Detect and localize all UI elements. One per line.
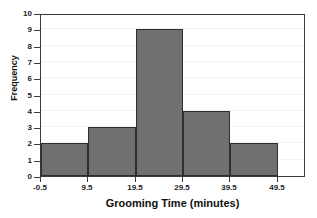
histogram-bar (136, 29, 183, 176)
histogram-bar (230, 143, 277, 176)
scan-header-text (46, 0, 166, 6)
y-axis-tick-label: 3 (0, 124, 32, 132)
y-axis-tick-label: 0 (0, 173, 32, 181)
x-axis-tick (135, 177, 136, 182)
y-axis-tick-label: 10 (0, 10, 32, 18)
histogram-figure: Frequency 012345678910 -0.59.519.529.539… (0, 0, 317, 218)
y-axis-tick-label: 5 (0, 92, 32, 100)
y-axis-tick-label: 8 (0, 43, 32, 51)
plot-inner (41, 15, 304, 176)
x-axis-tick (87, 177, 88, 182)
y-axis-tick-label: 9 (0, 26, 32, 34)
y-axis-tick-label: 7 (0, 59, 32, 67)
x-axis-tick (182, 177, 183, 182)
y-axis-tick-label: 4 (0, 108, 32, 116)
y-axis-tick-label: 6 (0, 75, 32, 83)
x-axis-tick (229, 177, 230, 182)
histogram-bar (88, 127, 135, 176)
y-axis-tick-label: 2 (0, 140, 32, 148)
histogram-bar (41, 143, 88, 176)
x-axis-tick-label: 19.5 (115, 183, 155, 192)
x-axis-title: Grooming Time (minutes) (40, 197, 305, 209)
histogram-bar (183, 111, 230, 176)
x-axis-tick (277, 177, 278, 182)
x-axis-tick-label: 9.5 (67, 183, 107, 192)
x-axis-tick-label: -0.5 (20, 183, 60, 192)
x-axis-tick-label: 39.5 (209, 183, 249, 192)
x-axis-tick (40, 177, 41, 182)
plot-area (40, 14, 305, 177)
y-axis-tick-label: 1 (0, 157, 32, 165)
x-axis-tick-label: 29.5 (162, 183, 202, 192)
x-axis-tick-label: 49.5 (257, 183, 297, 192)
